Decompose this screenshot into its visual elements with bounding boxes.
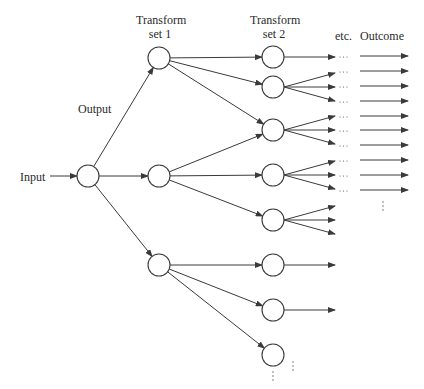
ellipsis-icon xyxy=(339,116,340,117)
transform2-out-edge xyxy=(284,220,335,234)
transform1-to-transform2-edge xyxy=(169,134,263,172)
transform1-to-transform2-edge xyxy=(170,175,262,176)
transform-set-2-line2: set 2 xyxy=(250,27,298,41)
vertical-ellipsis-icon xyxy=(292,369,293,370)
ellipsis-icon xyxy=(339,145,340,146)
transform-set-1-node xyxy=(148,165,170,187)
ellipsis-icon xyxy=(339,175,340,176)
ellipsis-icon xyxy=(346,145,347,146)
vertical-ellipsis-icon xyxy=(272,371,273,372)
transform-set-2-node xyxy=(262,46,284,68)
vertical-ellipsis-icon xyxy=(272,379,273,380)
transform1-to-transform2-edge xyxy=(169,269,263,306)
ellipsis-icon xyxy=(346,190,347,191)
ellipsis-icon xyxy=(346,86,347,87)
transform-set-1-label: Transform set 1 xyxy=(136,13,184,41)
vertical-ellipsis-icon xyxy=(292,361,293,362)
ellipsis-icon xyxy=(343,86,344,87)
transform2-out-edge xyxy=(284,206,335,220)
ellipsis-icon xyxy=(343,190,344,191)
transform-set-2-node xyxy=(262,344,284,366)
transform1-to-transform2-edge xyxy=(170,57,262,58)
transform-set-2-node xyxy=(262,76,284,98)
vertical-ellipsis-icon xyxy=(272,375,273,376)
ellipsis-icon xyxy=(343,56,344,57)
ellipsis-icon xyxy=(339,160,340,161)
transform-set-2-node xyxy=(262,119,284,141)
transform2-out-edge xyxy=(284,130,335,144)
transform2-out-edge xyxy=(284,175,335,189)
ellipsis-icon xyxy=(343,116,344,117)
transform-set-1-line2: set 1 xyxy=(136,27,184,41)
ellipsis-icon xyxy=(346,130,347,131)
vertical-ellipsis-icon xyxy=(382,209,383,210)
input-to-transform1-edge xyxy=(94,67,154,166)
vertical-ellipsis-icon xyxy=(382,205,383,206)
ellipsis-icon xyxy=(346,175,347,176)
transform1-to-transform2-edge xyxy=(168,272,265,348)
ellipsis-icon xyxy=(346,101,347,102)
ellipsis-icon xyxy=(343,101,344,102)
input-node xyxy=(77,165,99,187)
ellipsis-icon xyxy=(343,130,344,131)
output-label: Output xyxy=(78,102,111,116)
outcome-label: Outcome xyxy=(360,29,404,43)
transform-set-2-node xyxy=(262,209,284,231)
transform2-out-edge xyxy=(284,87,335,101)
ellipsis-icon xyxy=(343,175,344,176)
transform1-to-transform2-edge xyxy=(169,180,262,216)
ellipsis-icon xyxy=(339,71,340,72)
transform-set-2-label: Transform set 2 xyxy=(250,13,298,41)
transform-set-2-node xyxy=(262,299,284,321)
ellipsis-icon xyxy=(339,190,340,191)
ellipsis-icon xyxy=(346,116,347,117)
ellipsis-icon xyxy=(343,71,344,72)
transform2-out-edge xyxy=(284,73,335,87)
ellipsis-icon xyxy=(343,145,344,146)
vertical-ellipsis-icon xyxy=(292,365,293,366)
transform-set-2-line1: Transform xyxy=(250,13,298,27)
transform-set-2-node xyxy=(262,254,284,276)
ellipsis-icon xyxy=(346,56,347,57)
transform1-to-transform2-edge xyxy=(170,61,263,85)
ellipsis-icon xyxy=(343,160,344,161)
ellipsis-icon xyxy=(339,56,340,57)
ellipsis-icon xyxy=(339,86,340,87)
input-to-transform1-edge xyxy=(95,185,152,257)
transform-set-1-node xyxy=(148,47,170,69)
etc-label: etc. xyxy=(335,29,352,43)
transform-set-1-line1: Transform xyxy=(136,13,184,27)
ellipsis-icon xyxy=(339,101,340,102)
ellipsis-icon xyxy=(346,71,347,72)
input-label: Input xyxy=(20,170,45,184)
ellipsis-icon xyxy=(346,160,347,161)
decision-tree-diagram xyxy=(0,0,424,389)
transform-set-2-node xyxy=(262,164,284,186)
vertical-ellipsis-icon xyxy=(382,201,383,202)
transform2-out-edge xyxy=(284,161,335,175)
ellipsis-icon xyxy=(339,130,340,131)
transform2-out-edge xyxy=(284,116,335,130)
transform-set-1-node xyxy=(148,254,170,276)
